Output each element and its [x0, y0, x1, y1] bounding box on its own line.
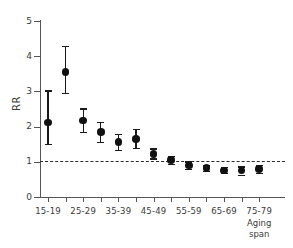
x-tick-label: 75-79: [246, 206, 272, 216]
data-point-marker: [150, 150, 158, 158]
data-point-marker: [79, 117, 87, 125]
error-bar-cap-lower: [80, 132, 87, 133]
reference-line-rr-1: [40, 161, 285, 162]
y-tick-mark: [34, 56, 40, 57]
error-bar-cap-lower: [45, 144, 52, 145]
data-point-marker: [238, 167, 246, 175]
error-bar-cap-lower: [150, 158, 157, 159]
x-tick-mark: [224, 197, 225, 202]
x-tick-mark: [206, 197, 207, 202]
data-point-marker: [62, 68, 70, 76]
data-point-marker: [132, 135, 140, 143]
error-bar-cap-lower: [62, 93, 69, 94]
error-bar-cap-lower: [115, 150, 122, 151]
data-point-marker: [97, 128, 105, 136]
error-bar-line: [47, 90, 48, 144]
error-bar-cap-lower: [133, 148, 140, 149]
x-tick-mark: [154, 197, 155, 202]
data-point-marker: [44, 119, 52, 127]
x-tick-label: 15-19: [35, 206, 61, 216]
data-point-marker: [167, 156, 175, 164]
x-tick-label: 65-69: [211, 206, 237, 216]
error-bar-cap-upper: [133, 129, 140, 130]
x-tick-mark: [171, 197, 172, 202]
x-tick-mark: [242, 197, 243, 202]
chart-figure: RR 012345 15-1925-2935-3945-4955-5965-69…: [0, 0, 293, 248]
error-bar-cap-upper: [62, 46, 69, 47]
y-tick-mark: [34, 197, 40, 198]
data-point-marker: [185, 162, 193, 170]
y-tick-mark: [34, 162, 40, 163]
data-point-marker: [255, 165, 263, 173]
y-tick-mark: [34, 127, 40, 128]
x-tick-mark: [136, 197, 137, 202]
x-tick-mark: [118, 197, 119, 202]
error-bar-cap-upper: [80, 108, 87, 109]
data-point-marker: [203, 164, 211, 172]
x-tick-mark: [259, 197, 260, 202]
x-tick-label: 55-59: [176, 206, 202, 216]
error-bar-cap-upper: [45, 90, 52, 91]
x-axis-title: Aging span: [247, 218, 271, 239]
y-tick-label: 4: [2, 52, 32, 61]
y-tick-mark: [34, 21, 40, 22]
x-tick-label: 45-49: [141, 206, 167, 216]
error-bar-cap-lower: [97, 142, 104, 143]
y-axis-line: [40, 20, 41, 198]
x-axis-line: [40, 197, 285, 198]
x-tick-mark: [83, 197, 84, 202]
data-point-marker: [115, 138, 123, 146]
x-tick-mark: [189, 197, 190, 202]
y-tick-label: 2: [2, 122, 32, 131]
x-tick-label: 25-29: [70, 206, 96, 216]
x-tick-label: 35-39: [106, 206, 132, 216]
y-tick-label: 5: [2, 17, 32, 26]
y-tick-label: 1: [2, 157, 32, 166]
y-tick-label: 0: [2, 193, 32, 202]
error-bar-cap-upper: [115, 134, 122, 135]
x-tick-mark: [66, 197, 67, 202]
x-tick-mark: [101, 197, 102, 202]
data-point-marker: [220, 167, 228, 175]
y-tick-label: 3: [2, 87, 32, 96]
y-tick-mark: [34, 91, 40, 92]
error-bar-cap-lower: [238, 175, 245, 176]
x-tick-mark: [48, 197, 49, 202]
error-bar-cap-lower: [256, 173, 263, 174]
error-bar-cap-upper: [97, 122, 104, 123]
